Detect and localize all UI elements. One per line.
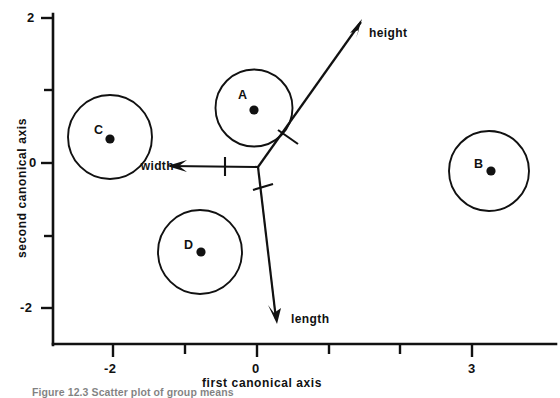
tick-vector-height bbox=[278, 130, 298, 144]
point-group-a bbox=[249, 105, 258, 114]
label-group-d: D bbox=[184, 239, 193, 252]
label-vector-height: height bbox=[369, 27, 407, 39]
x-tick-label-0: 0 bbox=[252, 362, 260, 375]
vector-arrowheads bbox=[167, 19, 362, 324]
group-mean-points bbox=[105, 105, 495, 256]
label-group-a: A bbox=[238, 89, 247, 102]
tick-vector-length bbox=[253, 184, 273, 190]
x-tick-label-m2: -2 bbox=[104, 362, 116, 375]
y-tick-label-2: 2 bbox=[27, 11, 35, 24]
confidence-circles bbox=[68, 70, 529, 295]
y-axis-title: second canonical axis bbox=[16, 118, 28, 258]
vector-width-shaft bbox=[170, 166, 258, 167]
y-tick-label-0: 0 bbox=[29, 156, 37, 169]
label-group-c: C bbox=[94, 124, 103, 137]
point-group-b bbox=[486, 166, 495, 175]
vector-scale-ticks bbox=[225, 130, 298, 190]
axis-lines bbox=[53, 14, 556, 345]
vector-height-shaft bbox=[258, 22, 361, 167]
loading-vectors bbox=[170, 22, 361, 319]
label-group-b: B bbox=[474, 158, 483, 171]
vector-length-shaft bbox=[258, 167, 276, 319]
y-tick-label-m2: -2 bbox=[20, 301, 32, 314]
x-axis-ticks bbox=[113, 344, 472, 357]
point-group-c bbox=[105, 134, 114, 143]
label-vector-width: width bbox=[141, 160, 174, 172]
x-tick-label-3: 3 bbox=[468, 362, 476, 375]
point-group-d bbox=[196, 247, 205, 256]
figure-caption: Figure 12.3 Scatter plot of group means bbox=[32, 387, 234, 398]
y-axis-ticks bbox=[41, 18, 53, 308]
label-vector-length: length bbox=[291, 313, 329, 325]
